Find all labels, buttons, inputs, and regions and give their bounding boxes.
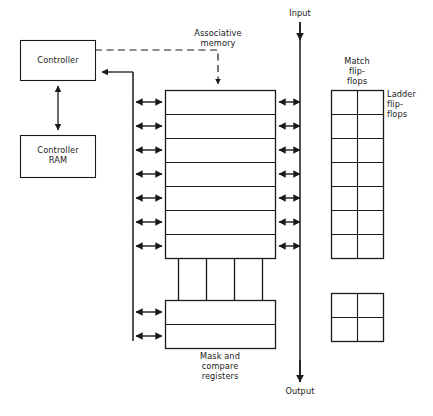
controller-ram-label: Controller RAM [37, 145, 78, 165]
associative-memory-label: Associative memory [194, 28, 241, 48]
associative-memory-dashed-link [95, 50, 218, 84]
associative-memory-diagram: Controller Controller RAM Associative me… [0, 0, 433, 416]
mask-compare-registers-label: Mask and compare registers [200, 351, 240, 382]
input-label: Input [289, 8, 311, 18]
output-label: Output [285, 386, 314, 396]
match-flip-flops-label: Match flip- flops [344, 56, 369, 87]
ladder-flip-flops-label: Ladder flip- flops [387, 89, 416, 120]
memory-array-block [166, 91, 276, 259]
controller-label: Controller [37, 55, 78, 65]
